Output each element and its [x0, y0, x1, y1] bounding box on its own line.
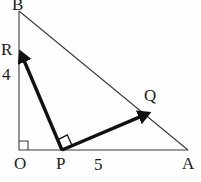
vertex-label-B: B	[12, 0, 23, 13]
right-angle-at-O	[19, 141, 28, 150]
point-label-Q: Q	[144, 87, 156, 104]
vertex-label-A: A	[182, 155, 194, 172]
vertex-label-O: O	[14, 155, 26, 172]
geometry-figure: B R 4 Q O P 5 A	[0, 0, 201, 182]
vector-PQ	[62, 116, 142, 150]
point-label-R: R	[1, 41, 12, 58]
vector-PR	[23, 59, 62, 151]
length-label-4: 4	[2, 66, 11, 83]
point-label-P: P	[56, 155, 65, 172]
hypotenuse-BA	[19, 11, 188, 150]
length-label-5: 5	[94, 156, 103, 173]
